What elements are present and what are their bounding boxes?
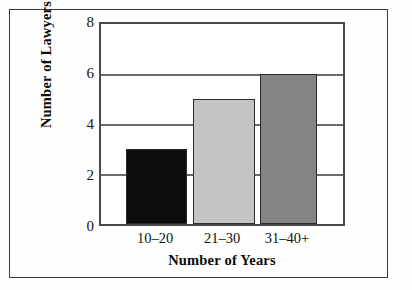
y-axis-ticks: 8 6 4 2 0 — [52, 22, 94, 226]
bar-31-40plus — [260, 74, 317, 224]
y-tick-label: 6 — [54, 66, 94, 81]
bar-21-30 — [193, 99, 255, 224]
x-axis-title: Number of Years — [99, 252, 345, 269]
y-tick-label: 4 — [54, 117, 94, 132]
bar-10-20 — [126, 149, 187, 224]
x-tick-label: 31–40+ — [247, 230, 327, 247]
bar-chart-figure: Number of Lawyers 8 6 4 2 0 10–20 21–30 … — [0, 0, 412, 290]
plot-inner — [101, 24, 343, 224]
y-tick-label: 0 — [54, 219, 94, 234]
y-tick-label: 8 — [54, 15, 94, 30]
plot-area — [99, 22, 345, 226]
y-tick-label: 2 — [54, 168, 94, 183]
x-axis-ticks: 10–20 21–30 31–40+ — [99, 230, 345, 250]
